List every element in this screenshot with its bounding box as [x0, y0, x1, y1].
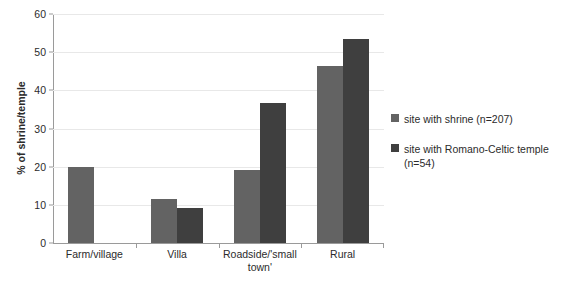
bar [317, 66, 343, 243]
x-axis-label: Rural [301, 248, 384, 274]
bars-layer [53, 14, 384, 243]
bar-group [53, 14, 136, 243]
y-tick-label-20: 20 [34, 161, 46, 173]
x-axis-label: Roadside/'smalltown' [219, 248, 302, 274]
y-tick-label-50: 50 [34, 46, 46, 58]
y-tick-label-60: 60 [34, 8, 46, 20]
x-axis-label-line: town' [219, 261, 302, 274]
x-axis-label-line: Villa [136, 248, 219, 261]
bar [68, 167, 94, 243]
legend-label: site with Romano-Celtic temple (n=54) [404, 142, 561, 170]
bar [151, 199, 177, 243]
x-axis-label: Villa [136, 248, 219, 274]
x-axis-label: Farm/village [53, 248, 136, 274]
plot-area: 0102030405060 [53, 14, 384, 243]
bar [177, 208, 203, 243]
bar-group [301, 14, 384, 243]
bar [343, 39, 369, 243]
y-tick-label-0: 0 [40, 237, 46, 249]
legend-label: site with shrine (n=207) [404, 112, 513, 126]
legend-item: site with Romano-Celtic temple (n=54) [391, 142, 561, 170]
legend-swatch-icon [391, 144, 399, 152]
bar-group [219, 14, 302, 243]
bar-group [136, 14, 219, 243]
chart-legend: site with shrine (n=207)site with Romano… [391, 112, 561, 186]
x-axis-labels: Farm/villageVillaRoadside/'smalltown'Rur… [53, 248, 384, 274]
x-axis-label-line: Rural [301, 248, 384, 261]
bar-chart: % of shrine/temple 0102030405060 Farm/vi… [0, 0, 564, 290]
y-tick-label-30: 30 [34, 123, 46, 135]
bar [260, 103, 286, 243]
y-axis-title: % of shrine/temple [15, 68, 27, 188]
bar [234, 170, 260, 243]
legend-item: site with shrine (n=207) [391, 112, 561, 126]
x-axis-label-line: Farm/village [53, 248, 136, 261]
x-axis-label-line: Roadside/'small [219, 248, 302, 261]
y-tick-label-40: 40 [34, 84, 46, 96]
legend-swatch-icon [391, 114, 399, 122]
y-tick-label-10: 10 [34, 199, 46, 211]
